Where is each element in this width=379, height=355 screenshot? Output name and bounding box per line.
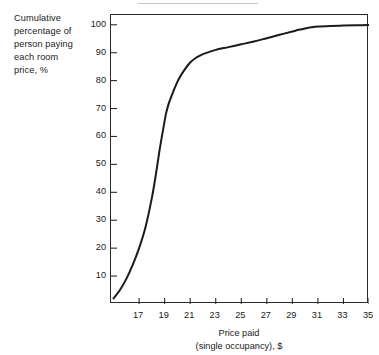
x-axis-tick-label: 17 <box>126 310 150 320</box>
x-axis-tick-label: 19 <box>152 310 176 320</box>
x-axis-tick-label: 21 <box>177 310 201 320</box>
x-axis-label-line-2: (single occupancy), $ <box>110 340 368 353</box>
x-axis-tick-label: 35 <box>356 310 379 320</box>
x-axis-tick-label: 29 <box>279 310 303 320</box>
x-axis-label: Price paid (single occupancy), $ <box>110 327 368 352</box>
x-axis-tick-label: 33 <box>330 310 354 320</box>
x-axis-tick-labels: 17192123252729313335 <box>0 0 379 355</box>
x-axis-tick-label: 31 <box>305 310 329 320</box>
x-axis-tick-label: 25 <box>228 310 252 320</box>
x-axis-label-line-1: Price paid <box>110 327 368 340</box>
chart-page: Cumulative percentage of person paying e… <box>0 0 379 355</box>
x-axis-tick-label: 27 <box>254 310 278 320</box>
x-axis-tick-label: 23 <box>203 310 227 320</box>
